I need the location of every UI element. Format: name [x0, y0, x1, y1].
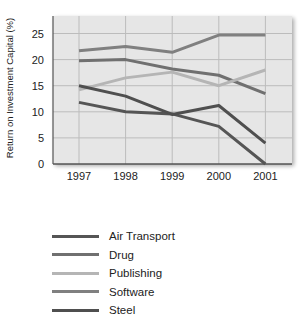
- legend-swatch-software: [52, 290, 99, 293]
- y-tick-label: 25: [32, 28, 44, 40]
- y-tick-label: 15: [32, 80, 44, 92]
- y-axis-title: Return on Investment Capital (%): [4, 18, 15, 158]
- legend-swatch-air-transport: [52, 235, 99, 238]
- x-tick-label: 1997: [67, 170, 91, 182]
- legend-item-air-transport: Air Transport: [52, 227, 175, 246]
- legend-item-drug: Drug: [52, 246, 175, 265]
- y-tick-label: 5: [38, 132, 44, 144]
- legend-swatch-publishing: [52, 272, 99, 275]
- legend-label: Publishing: [109, 267, 162, 279]
- legend-label: Drug: [109, 249, 134, 261]
- y-tick-label: 20: [32, 54, 44, 66]
- x-tick-label: 2001: [253, 170, 277, 182]
- legend: Air Transport Drug Publishing Software S…: [52, 227, 175, 318]
- x-tick-label: 1999: [160, 170, 184, 182]
- y-axis-ticks: 0510152025: [32, 28, 44, 171]
- x-axis-ticks: 19971998199920002001: [67, 170, 278, 182]
- legend-swatch-steel: [52, 309, 99, 312]
- legend-label: Software: [109, 286, 154, 298]
- legend-item-software: Software: [52, 283, 175, 302]
- legend-item-steel: Steel: [52, 301, 175, 318]
- legend-label: Air Transport: [109, 230, 175, 242]
- legend-swatch-drug: [52, 253, 99, 256]
- x-tick-label: 1998: [113, 170, 137, 182]
- legend-item-publishing: Publishing: [52, 264, 175, 283]
- y-tick-label: 10: [32, 106, 44, 118]
- legend-label: Steel: [109, 304, 135, 316]
- line-chart: 0510152025 19971998199920002001 Return o…: [0, 0, 308, 200]
- y-tick-label: 0: [38, 158, 44, 170]
- x-tick-label: 2000: [207, 170, 231, 182]
